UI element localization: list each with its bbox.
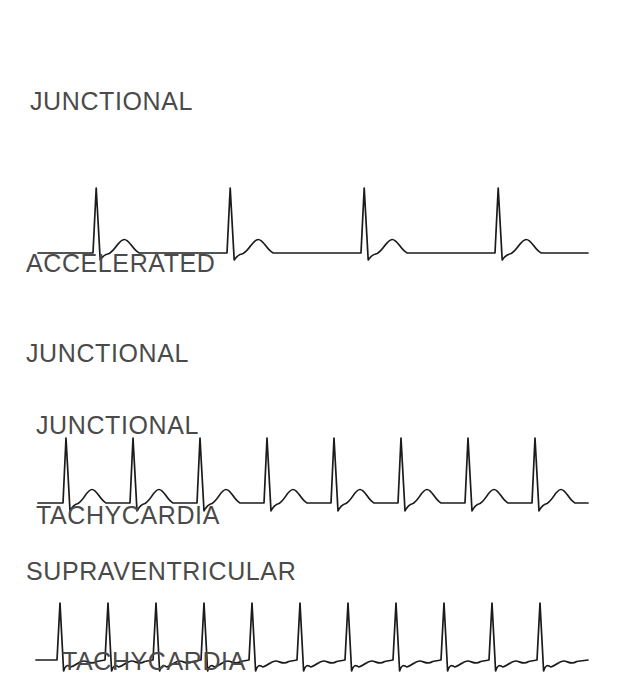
rhythm-label-line: TACHYCARDIA (62, 646, 620, 676)
rhythm-block-supraventricular-tachycardia: SUPRAVENTRICULAR TACHYCARDIA (0, 496, 620, 679)
rhythm-label-line: JUNCTIONAL (36, 410, 620, 440)
rhythm-label-line: SUPRAVENTRICULAR (26, 556, 620, 586)
rhythm-label-line: JUNCTIONAL (30, 86, 620, 116)
rhythm-label-line: ACCELERATED (26, 248, 620, 278)
rhythm-label-junctional: JUNCTIONAL (30, 26, 620, 176)
rhythm-label-supraventricular-tachycardia: SUPRAVENTRICULAR TACHYCARDIA (26, 496, 620, 679)
ecg-figure: JUNCTIONAL ACCELERATED JUNCTIONAL JUNCTI… (0, 0, 620, 679)
